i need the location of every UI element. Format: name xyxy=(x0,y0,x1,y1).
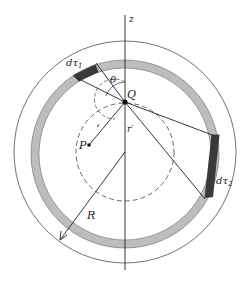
label-r-big: R xyxy=(86,209,95,222)
point-p xyxy=(87,143,91,147)
angle-arc xyxy=(94,79,125,119)
label-r-script: 𝓇 xyxy=(96,120,100,129)
label-r-prime: r′ xyxy=(127,124,133,134)
label-z-axis: z xyxy=(128,14,134,24)
label-p: P xyxy=(78,139,87,152)
spherical-shell-diagram: z Q P θ R r′ 𝓇 dτ1 dτ2 xyxy=(0,0,248,300)
line-q-to-dtau1-a xyxy=(73,76,125,102)
line-q-to-dtau2-b xyxy=(125,102,205,199)
label-theta: θ xyxy=(110,74,116,85)
label-dtau2: dτ2 xyxy=(216,175,233,188)
label-q: Q xyxy=(127,88,136,101)
label-dtau1: dτ1 xyxy=(66,57,82,70)
radius-r-line xyxy=(60,152,125,240)
line-q-to-p xyxy=(89,102,125,145)
